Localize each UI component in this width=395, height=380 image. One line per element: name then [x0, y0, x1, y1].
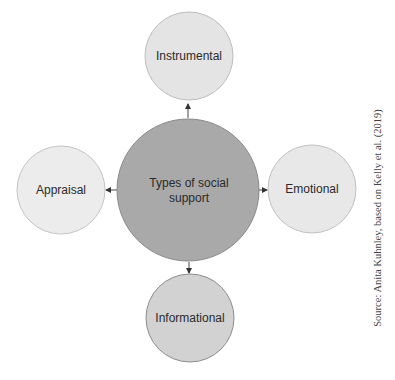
- diagram-canvas: Instrumental Appraisal Emotional Informa…: [0, 0, 395, 380]
- node-center: Types of social support: [117, 119, 259, 261]
- node-emotional: Emotional: [268, 145, 356, 233]
- instrumental-label: Instrumental: [156, 49, 222, 63]
- social-support-diagram: Instrumental Appraisal Emotional Informa…: [0, 0, 395, 380]
- node-appraisal: Appraisal: [17, 146, 105, 234]
- center-label-line1: Types of social: [149, 176, 228, 190]
- source-caption: Source: Anita Kuhnley, based on Kelly et…: [372, 109, 384, 327]
- node-instrumental: Instrumental: [145, 12, 233, 100]
- informational-label: Informational: [155, 311, 224, 325]
- center-circle: [117, 119, 259, 261]
- emotional-label: Emotional: [285, 182, 338, 196]
- node-informational: Informational: [146, 274, 234, 362]
- center-label-line2: support: [169, 191, 210, 205]
- appraisal-label: Appraisal: [36, 183, 86, 197]
